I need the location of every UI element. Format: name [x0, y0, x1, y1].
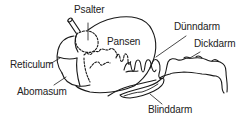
cecum [108, 79, 164, 99]
esophagus [67, 17, 80, 33]
label-dickdarm: Dickdarm [194, 38, 235, 49]
leader-dickdarm [190, 52, 200, 58]
label-psalter: Psalter [74, 4, 104, 15]
reticulum-outline [57, 36, 77, 73]
leader-blinddarm [150, 94, 162, 104]
omasum-outline [75, 31, 98, 53]
label-abomasum: Abomasum [17, 86, 67, 97]
label-blinddarm: Blinddarm [148, 104, 192, 115]
label-reticulum: Reticulum [10, 59, 54, 70]
large-intestine [150, 56, 227, 93]
leader-duenndarm [156, 36, 186, 57]
label-duenndarm: Dünndarm [174, 21, 220, 32]
label-pansen: Pansen [107, 36, 140, 47]
leader-abomasum [54, 77, 66, 85]
digestive-tract-diagram: Psalter Pansen Dünndarm Dickdarm Reticul… [0, 0, 245, 123]
internal-loops [84, 48, 131, 82]
